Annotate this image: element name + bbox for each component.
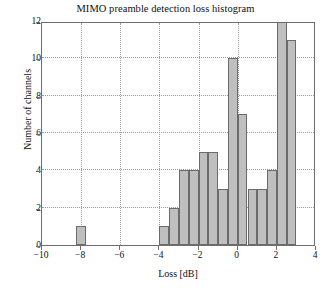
histogram-bar [267,170,277,245]
x-tick-label: −4 [138,250,178,260]
x-tick-mark [315,246,316,250]
histogram-figure: MIMO preamble detection loss histogram 0… [0,0,331,288]
gridline-y-6 [42,132,314,133]
histogram-bar [199,152,209,245]
x-tick-mark [119,246,120,250]
x-tick-mark [198,246,199,250]
histogram-bar [208,152,218,245]
x-axis-ticks: −10−8−6−4−2024 [41,246,315,264]
y-tick-mark [36,22,40,23]
y-tick-mark [36,246,40,247]
histogram-bar [218,189,228,245]
gridline-x--4 [159,23,160,245]
x-tick-mark [237,246,238,250]
histogram-bar [76,226,86,245]
histogram-bar [179,170,189,245]
histogram-bar [189,170,199,245]
gridline-y-8 [42,95,314,96]
x-tick-mark [41,246,42,250]
histogram-bar [238,114,248,245]
y-tick-mark [36,171,40,172]
plot-area [41,22,315,246]
x-axis-label: Loss [dB] [41,268,315,279]
x-tick-label: −2 [178,250,218,260]
histogram-bar [169,208,179,245]
x-tick-label: 0 [217,250,257,260]
y-tick-mark [36,134,40,135]
y-tick-mark [36,59,40,60]
x-tick-mark [80,246,81,250]
y-axis-ticks: 024681012 [0,22,41,246]
x-tick-label: −10 [21,250,61,260]
gridline-y-10 [42,57,314,58]
histogram-bar [257,189,267,245]
gridline-x--8 [81,23,82,245]
histogram-bar [159,226,169,245]
chart-title: MIMO preamble detection loss histogram [0,3,331,14]
histogram-bar [248,189,258,245]
x-tick-label: 2 [256,250,296,260]
y-tick-mark [36,97,40,98]
x-tick-label: −8 [60,250,100,260]
histogram-bar [277,22,287,245]
x-tick-label: −6 [99,250,139,260]
x-tick-mark [158,246,159,250]
x-tick-label: 4 [295,250,331,260]
histogram-bar [228,58,238,245]
y-tick-mark [36,209,40,210]
histogram-bar [287,40,297,245]
x-tick-mark [276,246,277,250]
gridline-x--6 [120,23,121,245]
y-axis-label: Number of channels [22,30,33,190]
